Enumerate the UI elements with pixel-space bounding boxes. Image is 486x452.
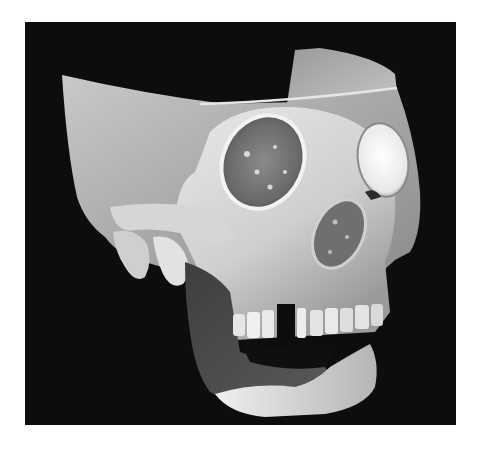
- ct-render-panel: [25, 22, 456, 425]
- figure-container: [0, 0, 486, 452]
- skull-3d-render: [25, 22, 456, 425]
- missing-tooth-gap: [277, 304, 295, 344]
